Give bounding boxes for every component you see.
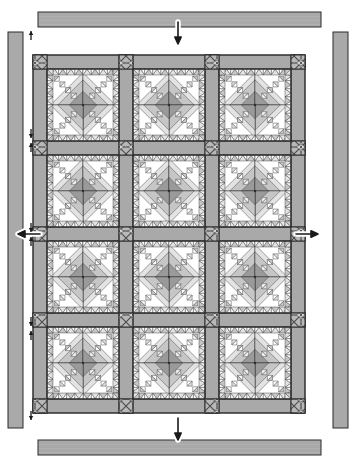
sashing-post-star	[291, 141, 305, 155]
block-quadrant	[133, 155, 169, 191]
block-center-dot	[82, 362, 84, 364]
sashing-post-star	[119, 313, 133, 327]
block-quadrant	[83, 241, 119, 277]
feathered-star-pinwheel-block	[47, 69, 119, 141]
sashing-post-star	[205, 141, 219, 155]
feathered-star-pinwheel-block	[133, 155, 205, 227]
block-quadrant	[47, 105, 83, 141]
block-quadrant	[47, 277, 83, 313]
block-quadrant	[255, 191, 291, 227]
sashing-post-star	[119, 227, 133, 241]
block-quadrant	[219, 363, 255, 399]
sashing-post-star	[119, 399, 133, 413]
block-quadrant	[255, 105, 291, 141]
block-quadrant	[219, 69, 255, 105]
block-quadrant	[169, 69, 205, 105]
block-quadrant	[133, 105, 169, 141]
block-center-dot	[168, 104, 170, 106]
sashing-post-star	[33, 55, 47, 69]
sashing-post-star	[291, 399, 305, 413]
feathered-star-pinwheel-block	[219, 241, 291, 313]
sashing-post-star	[33, 313, 47, 327]
sashing-post-star	[291, 55, 305, 69]
block-quadrant	[47, 363, 83, 399]
block-quadrant	[255, 241, 291, 277]
block-quadrant	[133, 327, 169, 363]
block-quadrant	[83, 363, 119, 399]
block-quadrant	[255, 277, 291, 313]
sashing-post-star	[291, 313, 305, 327]
block-center-dot	[254, 276, 256, 278]
sashing-post-star	[205, 55, 219, 69]
block-center-dot	[168, 362, 170, 364]
feathered-star-pinwheel-block	[133, 241, 205, 313]
block-quadrant	[169, 363, 205, 399]
block-quadrant	[219, 105, 255, 141]
block-quadrant	[47, 155, 83, 191]
block-quadrant	[169, 241, 205, 277]
sashing-post-star	[205, 399, 219, 413]
sashing-post-star	[205, 227, 219, 241]
block-quadrant	[219, 277, 255, 313]
block-quadrant	[83, 69, 119, 105]
right-border-strip	[333, 32, 348, 428]
block-quadrant	[83, 105, 119, 141]
block-quadrant	[47, 191, 83, 227]
block-center-dot	[82, 104, 84, 106]
block-quadrant	[169, 327, 205, 363]
block-center-dot	[82, 190, 84, 192]
feathered-star-pinwheel-block	[47, 327, 119, 399]
block-center-dot	[254, 190, 256, 192]
feathered-star-pinwheel-block	[47, 155, 119, 227]
sashing-post-star	[33, 141, 47, 155]
block-quadrant	[83, 155, 119, 191]
sashing-post-star	[205, 313, 219, 327]
sashing-post-star	[119, 141, 133, 155]
block-quadrant	[255, 363, 291, 399]
block-quadrant	[219, 155, 255, 191]
sashing-post-star	[119, 55, 133, 69]
block-quadrant	[133, 363, 169, 399]
quilt-center	[33, 55, 305, 413]
feathered-star-pinwheel-block	[219, 327, 291, 399]
block-quadrant	[133, 241, 169, 277]
block-quadrant	[219, 191, 255, 227]
block-quadrant	[219, 241, 255, 277]
block-center-dot	[168, 276, 170, 278]
block-quadrant	[83, 277, 119, 313]
quilt-assembly-diagram	[0, 0, 358, 467]
block-quadrant	[169, 105, 205, 141]
feathered-star-pinwheel-block	[133, 69, 205, 141]
feathered-star-pinwheel-block	[47, 241, 119, 313]
block-quadrant	[169, 155, 205, 191]
block-quadrant	[255, 327, 291, 363]
block-quadrant	[133, 69, 169, 105]
block-quadrant	[133, 277, 169, 313]
block-quadrant	[219, 327, 255, 363]
feathered-star-pinwheel-block	[219, 155, 291, 227]
block-quadrant	[255, 155, 291, 191]
block-quadrant	[83, 191, 119, 227]
block-quadrant	[169, 191, 205, 227]
block-center-dot	[82, 276, 84, 278]
block-quadrant	[47, 241, 83, 277]
block-quadrant	[47, 327, 83, 363]
quilt-diagram-svg	[0, 0, 358, 467]
block-quadrant	[169, 277, 205, 313]
block-quadrant	[83, 327, 119, 363]
block-center-dot	[168, 190, 170, 192]
feathered-star-pinwheel-block	[219, 69, 291, 141]
block-quadrant	[255, 69, 291, 105]
feathered-star-pinwheel-block	[133, 327, 205, 399]
block-quadrant	[47, 69, 83, 105]
block-center-dot	[254, 104, 256, 106]
block-quadrant	[133, 191, 169, 227]
block-center-dot	[254, 362, 256, 364]
sashing-post-star	[33, 399, 47, 413]
